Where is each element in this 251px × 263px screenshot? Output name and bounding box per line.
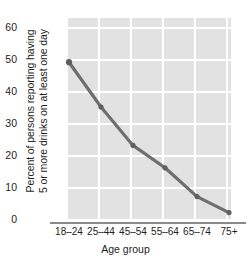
y-axis-title-line-2: 5 or more drinks on at least one day (37, 29, 50, 193)
x-axis-tick-labels: 18–24 25–44 45–54 55–64 65–74 75+ (56, 226, 246, 240)
y-tick-label-20: 20 (0, 150, 17, 160)
gridline-horizontal (66, 187, 231, 189)
y-tick-label-40: 40 (0, 86, 17, 96)
gridline-vertical (194, 18, 196, 221)
y-axis-title-line-1: Percent of persons reporting having (24, 30, 37, 193)
y-tick-label-30: 30 (0, 118, 17, 128)
x-tick-label-5: 75+ (207, 226, 251, 237)
plot-area (66, 18, 231, 221)
gridline-horizontal (66, 123, 231, 125)
x-axis-line (50, 222, 246, 224)
gridline-vertical (98, 18, 100, 221)
gridline-vertical (66, 18, 68, 221)
gridline-vertical (226, 18, 228, 221)
y-tick-label-60: 60 (0, 22, 17, 32)
y-tick-label-10: 10 (0, 182, 17, 192)
gridline-horizontal (66, 219, 231, 221)
y-tick-label-0: 0 (0, 214, 17, 224)
gridline-vertical (130, 18, 132, 221)
line-chart: Percent of persons reporting having 5 or… (0, 0, 251, 263)
gridline-horizontal (66, 59, 231, 61)
y-tick-label-50: 50 (0, 54, 17, 64)
x-axis-title: Age group (0, 243, 251, 255)
gridline-vertical (162, 18, 164, 221)
gridline-horizontal (66, 91, 231, 93)
gridline-horizontal (66, 27, 231, 29)
gridline-horizontal (66, 155, 231, 157)
y-axis-title: Percent of persons reporting having 5 or… (22, 6, 52, 216)
